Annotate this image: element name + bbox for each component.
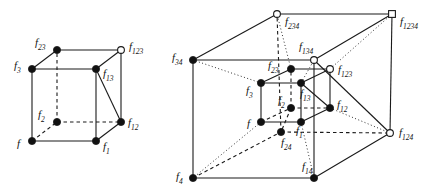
cube-node-f3 [28,65,35,72]
tesseract-label-f23: f23 [268,59,279,75]
tesseract-node-f24 [277,128,284,135]
tesseract-edge-f34-f234 [193,14,277,60]
tesseract-edge-f14-f124 [314,133,390,178]
cube-node-f1 [92,137,99,144]
tesseract-node-f4 [189,174,196,181]
lattice-diagram-svg: ff1f2f12f3f13f23f123 ff1f2f12f3f13f23f12… [0,0,438,195]
tesseract-label-f123: f123 [338,63,353,79]
tesseract-label-f34: f34 [172,51,183,67]
cube-edges-dashed [32,50,121,141]
cube-label-f3: f3 [14,59,21,75]
tesseract-edges-solid [193,14,392,178]
tesseract-node-f123 [327,66,334,73]
tesseract-node-f23 [287,65,294,72]
tesseract-node-f12 [326,104,333,111]
tesseract-label-f1234: f1234 [400,15,418,31]
tesseract-node-f34 [189,56,196,63]
tesseract-node-f13 [297,79,304,86]
tesseract-label-f: f [247,117,252,129]
tesseract-node-f3 [257,79,264,86]
tesseract-label-f14: f14 [302,160,313,176]
cube-label-f12: f12 [128,116,139,132]
tesseract-node-f124 [387,130,394,137]
cube-label-f13: f13 [103,67,114,83]
tesseract-edge-f4-f24 [193,132,281,178]
tesseract-edges-dashed [193,14,390,178]
tesseract-label-f124: f124 [399,126,414,142]
cube-node-f [28,137,35,144]
cube-node-f13 [92,65,99,72]
cube-label-f: f [17,137,22,149]
cube-edge-f13-f123 [96,50,121,69]
cube-node-f123 [118,47,125,54]
tesseract-label-f134: f134 [299,40,314,56]
cube-node-f12 [117,118,124,125]
tesseract-node-f [257,118,264,125]
tesseract-edge-f123-f1234 [330,14,392,69]
tesseract-label-f1: f1 [296,124,303,140]
tesseract-edge-f1-f12 [301,108,330,122]
cube-label-f123: f123 [129,40,144,56]
cube-edge-f1-f12 [96,122,121,141]
tesseract-label-f2: f2 [278,94,285,110]
tesseract-edge-f3-f34 [193,60,261,83]
tesseract-label-f234: f234 [285,15,300,31]
tesseract-nodes [189,11,395,182]
tesseract-node-f134 [311,57,318,64]
tesseract-edge-f12-f124 [330,108,390,133]
figure-canvas: ff1f2f12f3f13f23f123 ff1f2f12f3f13f23f12… [0,0,438,195]
tesseract-label-f3: f3 [246,84,253,100]
tesseract-node-f2 [287,104,294,111]
tesseract-edges-dotted [193,14,392,178]
tesseract-edge-f-f2 [261,108,291,122]
tesseract-edge-f-f4 [193,122,261,178]
cube-node-f23 [53,46,60,53]
tesseract-label-f4: f4 [176,170,183,186]
cube-edge-f3-f23 [32,50,57,69]
tesseract-node-f1234 [389,11,396,18]
cube-label-f1: f1 [103,140,110,156]
cube-label-f2: f2 [38,108,45,124]
tesseract-node-f234 [274,11,281,18]
tesseract-label-f12: f12 [337,98,348,114]
tesseract-labels: ff1f2f12f3f13f23f123f4f14f24f124f34f134f… [172,15,418,186]
tesseract-edge-f124-f1234 [390,14,392,133]
cube-node-f2 [53,118,60,125]
cube-edges-solid [32,50,121,141]
cube-edge-f-f2 [32,122,57,141]
cube-label-f23: f23 [35,36,46,52]
tesseract-edge-f134-f1234 [314,14,392,60]
tesseract-label-f24: f24 [281,136,292,152]
